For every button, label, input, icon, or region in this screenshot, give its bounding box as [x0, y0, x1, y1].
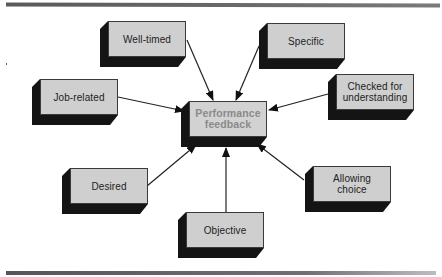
bottom-rule	[6, 271, 436, 275]
box-face: Checked for understanding	[336, 74, 414, 110]
box-face: Job-related	[40, 79, 118, 115]
arrow-specific	[236, 46, 259, 100]
node-job-related: Job-related	[40, 79, 118, 115]
node-label: Objective	[204, 225, 247, 236]
center-label: Performance feedback	[195, 108, 260, 130]
arrow-well-timed	[187, 40, 213, 100]
box-face: Well-timed	[108, 21, 186, 57]
node-label-line-1: Checked for	[347, 81, 402, 92]
box-face: Allowing choice	[313, 166, 391, 202]
node-label-line-2: understanding	[343, 92, 408, 103]
box-face: Specific	[267, 23, 345, 59]
node-specific: Specific	[267, 23, 345, 59]
node-label-line-2: choice	[337, 184, 367, 195]
arrow-job-related	[118, 97, 184, 111]
node-desired: Desired	[70, 168, 148, 204]
box-face: Objective	[186, 212, 264, 248]
node-label: Checked for understanding	[343, 81, 408, 103]
arrow-checked	[269, 94, 328, 110]
node-well-timed: Well-timed	[108, 21, 186, 57]
node-label: Specific	[288, 36, 324, 47]
arrow-desired	[147, 145, 196, 186]
node-label: Well-timed	[123, 34, 171, 45]
node-label: Allowing choice	[333, 173, 371, 195]
arrow-allowing-choice	[257, 144, 304, 180]
box-face: Desired	[70, 168, 148, 204]
node-label: Desired	[91, 181, 126, 192]
node-checked-for-understanding: Checked for understanding	[336, 74, 414, 110]
node-performance-feedback: Performance feedback	[189, 101, 267, 137]
node-objective: Objective	[186, 212, 264, 248]
center-label-line-2: feedback	[205, 118, 251, 130]
node-label-line-1: Allowing	[333, 173, 371, 184]
box-face: Performance feedback	[189, 101, 267, 137]
node-label: Job-related	[53, 92, 104, 103]
node-allowing-choice: Allowing choice	[313, 166, 391, 202]
